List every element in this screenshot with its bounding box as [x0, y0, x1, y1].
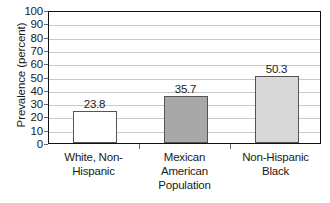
y-axis-tick-label: 40	[16, 85, 43, 97]
x-axis-category-label-line: American	[139, 164, 230, 178]
y-axis-tick-mark	[44, 78, 48, 79]
x-axis-category-label: White, Non-Hispanic	[48, 150, 139, 178]
y-axis-tick-mark	[44, 64, 48, 65]
y-axis-tick-mark	[44, 144, 48, 145]
y-axis-tick-mark	[44, 104, 48, 105]
y-axis-tick-label: 0	[16, 138, 43, 150]
x-axis-separator-tick	[139, 144, 140, 149]
y-axis-tick-label: 100	[16, 5, 43, 17]
x-axis-category-label: Non-HispanicBlack	[230, 150, 321, 178]
x-axis-separator-tick	[230, 144, 231, 149]
y-axis-tick-labels: 1009080706050403020100	[16, 11, 43, 144]
y-axis-tick-mark	[44, 24, 48, 25]
bars-layer: 23.835.750.3	[49, 12, 320, 143]
x-axis-category-label-line: Non-Hispanic	[230, 150, 321, 164]
x-axis-category-label-line: Mexican	[139, 150, 230, 164]
bar	[73, 111, 117, 143]
y-axis-tick-mark	[44, 51, 48, 52]
y-axis-tick-label: 90	[16, 18, 43, 30]
y-axis-tick-label: 50	[16, 72, 43, 84]
y-axis-tick-mark	[44, 38, 48, 39]
x-axis-category-label-line: Hispanic	[48, 164, 139, 178]
y-axis-tick-label: 30	[16, 98, 43, 110]
y-axis-tick-mark	[44, 131, 48, 132]
bar-value-label: 23.8	[65, 98, 125, 111]
y-axis-tick-label: 10	[16, 125, 43, 137]
bar-value-label: 50.3	[247, 63, 307, 76]
plot-area: 23.835.750.3	[48, 11, 321, 144]
bar	[255, 76, 299, 143]
y-axis-tick-label: 60	[16, 58, 43, 70]
y-axis-tick-mark	[44, 91, 48, 92]
x-axis-category-label-line: White, Non-	[48, 150, 139, 164]
x-axis-category-labels: White, Non-HispanicMexicanAmericanNon-Hi…	[48, 150, 321, 180]
bar-value-label: 35.7	[156, 83, 216, 96]
y-axis-tick-label: 80	[16, 32, 43, 44]
y-axis-tick-mark	[44, 11, 48, 12]
bar	[164, 96, 208, 143]
y-axis-tick-label: 20	[16, 111, 43, 123]
x-axis-category-label: MexicanAmerican	[139, 150, 230, 178]
x-axis-title: Population	[48, 178, 321, 192]
x-axis-category-label-line: Black	[230, 164, 321, 178]
y-axis-tick-mark	[44, 117, 48, 118]
y-axis-tick-label: 70	[16, 45, 43, 57]
bar-chart: Prevalence (percent) 1009080706050403020…	[0, 0, 330, 203]
